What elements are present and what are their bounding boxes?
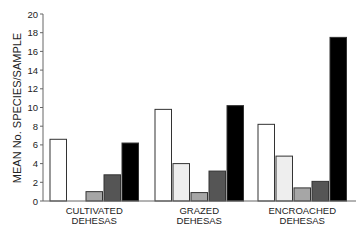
y-axis-label: MEAN No. SPECIES/SAMPLE xyxy=(11,33,23,183)
bar xyxy=(312,181,329,201)
y-tick-label: 2 xyxy=(33,177,38,188)
bar xyxy=(122,143,139,201)
bar xyxy=(50,139,67,201)
bar xyxy=(330,37,347,201)
y-tick-label: 6 xyxy=(33,139,38,150)
bar xyxy=(227,106,244,201)
y-tick-label: 18 xyxy=(27,27,38,38)
y-tick-label: 8 xyxy=(33,121,38,132)
category-label: DEHESAS xyxy=(177,215,222,226)
bar xyxy=(86,192,103,201)
bar xyxy=(258,124,275,201)
bar xyxy=(191,193,208,201)
bar xyxy=(209,171,226,201)
bar-group xyxy=(155,106,244,201)
bar xyxy=(294,188,311,201)
y-tick-label: 20 xyxy=(27,9,38,20)
bar xyxy=(155,109,172,201)
y-tick-label: 0 xyxy=(33,196,38,207)
y-tick-label: 4 xyxy=(33,158,38,169)
bars xyxy=(50,37,347,201)
category-label: DEHESAS xyxy=(280,215,325,226)
x-axis: CULTIVATEDDEHESASGRAZEDDEHESASENCROACHED… xyxy=(43,201,356,226)
bar-group xyxy=(50,139,139,201)
y-axis: 02468101214161820 xyxy=(27,9,43,207)
y-tick-label: 12 xyxy=(27,83,38,94)
bar xyxy=(173,164,190,201)
y-tick-label: 16 xyxy=(27,46,38,57)
category-label: DEHESAS xyxy=(72,215,117,226)
bar xyxy=(276,156,293,201)
y-tick-label: 10 xyxy=(27,102,38,113)
bar xyxy=(104,175,121,201)
y-tick-label: 14 xyxy=(27,65,38,76)
bar-group xyxy=(258,37,347,201)
bar-chart: 02468101214161820 CULTIVATEDDEHESASGRAZE… xyxy=(0,0,358,237)
